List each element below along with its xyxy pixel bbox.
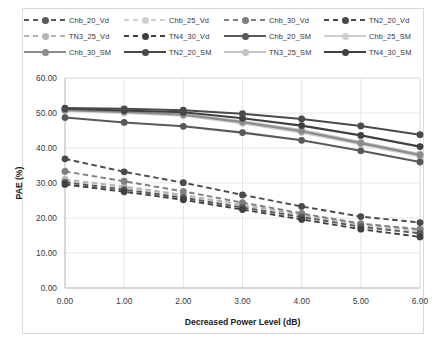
data-point xyxy=(121,168,128,175)
data-point xyxy=(180,123,187,130)
data-point xyxy=(62,168,69,175)
data-point xyxy=(417,152,424,159)
data-point xyxy=(298,122,305,129)
data-point xyxy=(239,192,246,199)
data-point xyxy=(180,179,187,186)
data-point xyxy=(180,196,187,203)
data-point xyxy=(121,188,128,195)
y-tick-label: 60.00 xyxy=(36,73,57,83)
x-tick-label: 2.00 xyxy=(175,296,192,306)
data-point xyxy=(180,188,187,195)
x-tick-label: 3.00 xyxy=(234,296,251,306)
y-tick-label: 0.00 xyxy=(41,283,58,293)
x-tick-label: 4.00 xyxy=(294,296,311,306)
data-point xyxy=(357,226,364,233)
data-point xyxy=(417,143,424,150)
data-point xyxy=(121,119,128,126)
data-point xyxy=(180,107,187,114)
data-point xyxy=(121,105,128,112)
data-point xyxy=(357,147,364,154)
data-point xyxy=(62,155,69,162)
data-point xyxy=(62,114,69,121)
data-point xyxy=(357,140,364,147)
y-tick-label: 30.00 xyxy=(36,178,57,188)
data-point xyxy=(62,105,69,112)
data-point xyxy=(357,132,364,139)
data-point xyxy=(357,123,364,130)
data-point xyxy=(239,206,246,213)
data-point xyxy=(417,219,424,226)
data-point xyxy=(298,137,305,144)
data-point xyxy=(357,213,364,220)
data-point xyxy=(62,181,69,188)
x-axis-title: Decreased Power Level (dB) xyxy=(185,317,301,327)
data-point xyxy=(239,129,246,136)
y-tick-label: 20.00 xyxy=(36,213,57,223)
chart-screenshot: Chb_20_VdChb_25_VdChb_30_VdTN2_20_VdTN3_… xyxy=(0,0,446,342)
data-point xyxy=(121,178,128,185)
data-point xyxy=(298,216,305,223)
y-tick-label: 50.00 xyxy=(36,108,57,118)
data-point xyxy=(298,203,305,210)
line-chart-svg: 0.0010.0020.0030.0040.0050.0060.000.001.… xyxy=(0,0,446,342)
data-point xyxy=(298,116,305,123)
data-point xyxy=(417,131,424,138)
x-tick-label: 5.00 xyxy=(353,296,370,306)
plot-area: 0.0010.0020.0030.0040.0050.0060.000.001.… xyxy=(0,0,446,342)
y-tick-label: 40.00 xyxy=(36,143,57,153)
y-axis-title: PAE (%) xyxy=(14,166,24,199)
x-tick-label: 6.00 xyxy=(412,296,429,306)
data-point xyxy=(417,234,424,241)
x-tick-label: 1.00 xyxy=(116,296,133,306)
y-tick-label: 10.00 xyxy=(36,248,57,258)
data-point xyxy=(239,110,246,117)
x-tick-label: 0.00 xyxy=(57,296,74,306)
data-point xyxy=(417,159,424,166)
